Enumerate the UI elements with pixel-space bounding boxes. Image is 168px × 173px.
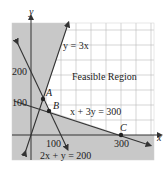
point-A [41, 97, 45, 101]
label-y-3x: y = 3x [63, 40, 89, 51]
label-point-A: A [45, 87, 53, 98]
label-2x-y-200: 2x + y = 200 [40, 150, 91, 161]
tick-x-300: 300 [114, 138, 129, 149]
y-axis-label: y [28, 6, 34, 17]
tick-x-100: 100 [46, 138, 61, 149]
label-point-C: C [120, 122, 127, 133]
label-x-3y-300: x + 3y = 300 [70, 106, 121, 117]
label-point-B: B [53, 100, 59, 111]
point-C [119, 133, 123, 137]
tick-y-200: 200 [12, 66, 27, 77]
feasible-region-graph: y x y = 3x Feasible Region x + 3y = 300 … [0, 0, 168, 173]
label-feasible-region: Feasible Region [72, 71, 137, 82]
point-B [47, 109, 51, 113]
tick-y-100: 100 [12, 97, 27, 108]
x-axis-label: x [156, 132, 162, 143]
